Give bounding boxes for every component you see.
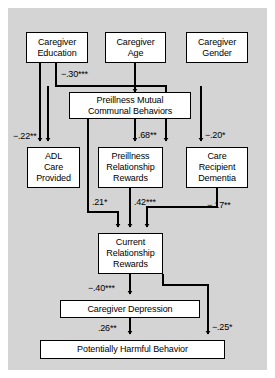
coef-mutual-to-preillness-rewards: .68** bbox=[138, 130, 157, 140]
path-diagram-figure: Caregiver Education Caregiver Age Caregi… bbox=[0, 0, 275, 378]
node-caregiver-education: Caregiver Education bbox=[26, 32, 88, 63]
coef-mutual-to-current-rewards: .21* bbox=[92, 197, 107, 207]
node-adl-care-provided: ADL Care Provided bbox=[27, 147, 80, 188]
node-adl-care-line2: Care bbox=[44, 162, 63, 173]
node-potentially-harmful-behavior: Potentially Harmful Behavior bbox=[40, 340, 225, 359]
node-caregiver-gender: Caregiver Gender bbox=[186, 32, 248, 63]
node-preillness-mutual-line2: Communal Behaviors bbox=[88, 106, 172, 117]
node-care-recipient-line3: Dementia bbox=[198, 173, 236, 184]
node-adl-care-line3: Provided bbox=[36, 173, 71, 184]
node-current-rewards-line2: Relationship bbox=[106, 248, 154, 259]
node-caregiver-age-line2: Age bbox=[128, 48, 144, 59]
node-preillness-rewards-line2: Relationship bbox=[106, 162, 154, 173]
node-caregiver-depression: Caregiver Depression bbox=[60, 300, 200, 318]
coef-current-to-harmful: −.25* bbox=[212, 322, 232, 332]
coef-depression-to-harmful: .26** bbox=[98, 323, 117, 333]
node-current-relationship-rewards: Current Relationship Rewards bbox=[98, 233, 163, 274]
node-current-rewards-line1: Current bbox=[116, 237, 145, 248]
node-caregiver-age: Caregiver Age bbox=[105, 32, 166, 63]
node-caregiver-depression-line1: Caregiver Depression bbox=[87, 304, 172, 315]
node-adl-care-line1: ADL bbox=[45, 151, 62, 162]
node-caregiver-education-line2: Education bbox=[37, 48, 76, 59]
node-preillness-rewards-line1: Preillness bbox=[111, 151, 149, 162]
node-caregiver-age-line1: Caregiver bbox=[116, 37, 154, 48]
coef-education-to-adl: −.22** bbox=[13, 131, 37, 141]
node-current-rewards-line3: Rewards bbox=[113, 259, 148, 270]
node-preillness-rewards-line3: Rewards bbox=[113, 173, 148, 184]
node-preillness-mutual-communal-behaviors: Preillness Mutual Communal Behaviors bbox=[69, 92, 191, 119]
node-preillness-relationship-rewards: Preillness Relationship Rewards bbox=[98, 147, 163, 188]
node-care-recipient-line1: Care bbox=[207, 151, 226, 162]
node-care-recipient-dementia: Care Recipient Dementia bbox=[186, 147, 248, 188]
node-preillness-mutual-line1: Preillness Mutual bbox=[97, 95, 164, 106]
node-caregiver-gender-line2: Gender bbox=[202, 48, 231, 59]
node-caregiver-education-line1: Caregiver bbox=[38, 37, 76, 48]
coef-mutual-to-dementia: −.20* bbox=[205, 130, 225, 140]
node-harmful-behavior-line1: Potentially Harmful Behavior bbox=[77, 344, 188, 355]
node-caregiver-gender-line1: Caregiver bbox=[198, 37, 236, 48]
node-care-recipient-line2: Recipient bbox=[199, 162, 236, 173]
coef-preillness-rewards-to-current: .42*** bbox=[134, 197, 156, 207]
coef-current-to-depression: −.40*** bbox=[88, 283, 115, 293]
coef-dementia-to-current: −.17** bbox=[207, 200, 231, 210]
coef-education-to-mutual: −.30*** bbox=[61, 69, 88, 79]
